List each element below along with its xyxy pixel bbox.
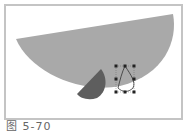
handle-bottom-center[interactable] <box>124 91 127 94</box>
handle-middle-left[interactable] <box>115 78 118 81</box>
figure-caption: 图 5-70 <box>6 121 51 131</box>
figure-canvas <box>0 0 185 131</box>
handle-bottom-right[interactable] <box>133 91 136 94</box>
handle-top-right[interactable] <box>133 65 136 68</box>
handle-top-left[interactable] <box>115 65 118 68</box>
handle-top-center[interactable] <box>124 65 127 68</box>
handle-middle-right[interactable] <box>133 78 136 81</box>
handle-bottom-left[interactable] <box>115 91 118 94</box>
